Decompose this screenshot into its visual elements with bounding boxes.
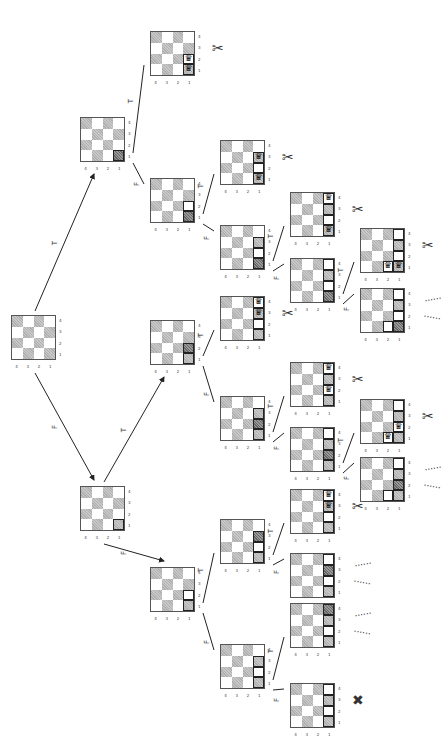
row-label: 1 bbox=[59, 352, 62, 357]
board-cell bbox=[221, 173, 232, 184]
board-cell bbox=[162, 179, 173, 190]
row-label: 4 bbox=[268, 522, 271, 527]
board-cell bbox=[361, 251, 372, 262]
board-cell bbox=[313, 385, 324, 396]
board-cell bbox=[302, 460, 313, 471]
board-cell-marked bbox=[393, 289, 404, 300]
board-cell bbox=[291, 385, 302, 396]
board-cell bbox=[221, 141, 232, 152]
board-cell bbox=[361, 240, 372, 251]
board-cell bbox=[302, 522, 313, 533]
row-labels: 4321 bbox=[268, 296, 271, 341]
edge-label-f: F bbox=[343, 307, 351, 311]
tree-node-ft: 43214321 bbox=[150, 320, 212, 380]
board-cell bbox=[183, 332, 194, 343]
row-labels: 4321 bbox=[338, 258, 341, 303]
board-cell-marked bbox=[393, 490, 404, 501]
row-labels: 4321 bbox=[338, 683, 341, 728]
board-cell bbox=[221, 163, 232, 174]
board-cell bbox=[243, 329, 254, 340]
board-cell bbox=[162, 54, 173, 65]
chess-board bbox=[220, 519, 265, 564]
row-label: 2 bbox=[128, 512, 131, 517]
scissors-icon: ✂ bbox=[352, 372, 364, 386]
board-cell bbox=[151, 211, 162, 222]
board-cell-marked bbox=[253, 319, 264, 330]
tree-node-root: 43214321 bbox=[11, 315, 73, 375]
column-label: 1 bbox=[118, 166, 121, 171]
chess-board bbox=[220, 225, 265, 270]
board-cell bbox=[243, 237, 254, 248]
board-cell-marked bbox=[323, 684, 334, 695]
board-cell-marked bbox=[323, 259, 334, 270]
board-cell bbox=[92, 519, 103, 530]
board-cell bbox=[103, 129, 114, 140]
board-cell-marked bbox=[323, 439, 334, 450]
row-label: 2 bbox=[338, 579, 341, 584]
board-cell bbox=[12, 327, 23, 338]
column-label: 4 bbox=[154, 616, 157, 621]
edge-label-f: F bbox=[133, 181, 141, 185]
chess-board bbox=[290, 489, 335, 534]
board-cell bbox=[313, 193, 324, 204]
board-cell bbox=[81, 509, 92, 520]
column-labels: 4321 bbox=[360, 337, 405, 342]
board-cell bbox=[361, 300, 372, 311]
tree-node-ffff: 43214321✖ bbox=[290, 683, 352, 739]
board-cell bbox=[162, 353, 173, 364]
board-cell bbox=[151, 590, 162, 601]
board-cell bbox=[151, 190, 162, 201]
row-label: 1 bbox=[338, 295, 341, 300]
column-label: 4 bbox=[364, 506, 367, 511]
row-label: 4 bbox=[408, 402, 411, 407]
board-cell bbox=[162, 211, 173, 222]
column-label: 2 bbox=[387, 337, 390, 342]
board-cell bbox=[173, 343, 184, 354]
board-cell bbox=[113, 498, 124, 509]
column-labels: 4321 bbox=[220, 345, 265, 350]
row-label: 2 bbox=[268, 251, 271, 256]
board-cell-marked bbox=[323, 604, 334, 615]
board-cell bbox=[313, 225, 324, 236]
board-cell-marked bbox=[113, 150, 124, 161]
column-labels: 4321 bbox=[360, 448, 405, 453]
board-cell bbox=[243, 656, 254, 667]
board-cell bbox=[372, 229, 383, 240]
column-label: 3 bbox=[306, 538, 309, 543]
board-cell bbox=[151, 579, 162, 590]
row-labels: 4321 bbox=[198, 567, 201, 612]
column-label: 1 bbox=[258, 345, 261, 350]
row-label: 3 bbox=[338, 567, 341, 572]
column-label: 4 bbox=[84, 166, 87, 171]
board-cell bbox=[113, 509, 124, 520]
board-cell bbox=[302, 706, 313, 717]
board-cell bbox=[313, 684, 324, 695]
chess-board bbox=[360, 399, 405, 444]
queen-icon bbox=[323, 385, 334, 396]
edge-label-f: F bbox=[120, 550, 128, 554]
column-label: 3 bbox=[236, 568, 239, 573]
board-cell bbox=[291, 695, 302, 706]
board-cell bbox=[92, 140, 103, 151]
board-cell bbox=[243, 297, 254, 308]
column-label: 4 bbox=[84, 535, 87, 540]
row-label: 2 bbox=[338, 453, 341, 458]
row-label: 3 bbox=[338, 617, 341, 622]
chess-board bbox=[80, 486, 125, 531]
row-labels: 4321 bbox=[338, 362, 341, 407]
board-cell bbox=[253, 645, 264, 656]
chess-board bbox=[220, 396, 265, 441]
column-label: 1 bbox=[398, 448, 401, 453]
row-label: 3 bbox=[268, 154, 271, 159]
board-cell bbox=[302, 565, 313, 576]
board-cell bbox=[302, 374, 313, 385]
board-cell bbox=[291, 576, 302, 587]
board-cell bbox=[291, 554, 302, 565]
board-cell bbox=[243, 645, 254, 656]
board-cell bbox=[302, 576, 313, 587]
column-label: 2 bbox=[247, 445, 250, 450]
board-cell bbox=[162, 600, 173, 611]
row-label: 1 bbox=[338, 229, 341, 234]
row-label: 1 bbox=[338, 590, 341, 595]
edge-label-t: T bbox=[120, 427, 128, 431]
